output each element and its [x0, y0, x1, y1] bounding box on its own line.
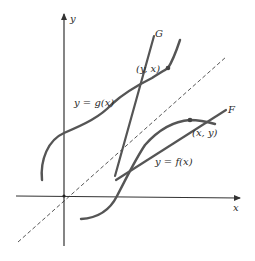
- tangent-label-F: F: [227, 104, 236, 115]
- point-y-x: [166, 66, 171, 71]
- point-label-y-x: (y, x): [136, 63, 160, 74]
- tangent-label-G: G: [155, 28, 163, 39]
- origin-point: [62, 194, 65, 197]
- x-axis: [16, 196, 240, 198]
- point-label-x-y: (x, y): [192, 127, 218, 138]
- point-x-y: [188, 118, 193, 123]
- tangent-line-F: [116, 110, 226, 180]
- curve-label-f: y = f(x): [154, 156, 193, 167]
- x-axis-label: x: [233, 202, 239, 213]
- y-axis-label: y: [69, 13, 76, 24]
- tangent-line-G: [115, 36, 154, 176]
- inverse-function-diagram: y x G F (y, x) (x, y) y = g(x) y = f(x): [0, 0, 255, 261]
- curve-label-g: y = g(x): [73, 97, 114, 108]
